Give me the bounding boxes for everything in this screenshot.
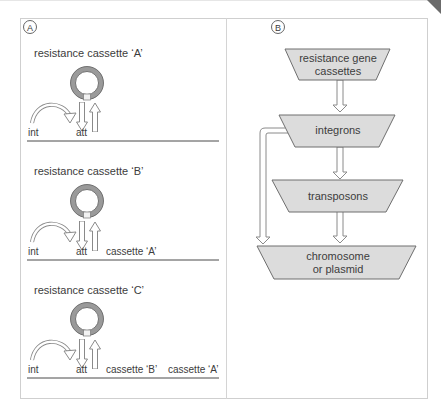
arrow-cassettes-to-integrons-icon xyxy=(333,80,347,112)
insertion-arrow-up-icon xyxy=(90,222,101,251)
att-label: att xyxy=(76,127,87,138)
svg-text:transposons: transposons xyxy=(308,190,368,202)
cassette-ring-icon xyxy=(71,303,104,337)
svg-text:integrons: integrons xyxy=(315,124,361,136)
scenario-c: resistance cassette ‘C’ int att cassette… xyxy=(27,284,219,378)
insertion-arrow-up-icon xyxy=(90,340,101,369)
node-resistance-gene-cassettes: resistance gene cassettes xyxy=(285,49,390,80)
node-integrons: integrons xyxy=(279,115,395,147)
cassette-label: cassette ‘A’ xyxy=(168,364,218,375)
svg-text:chromosome: chromosome xyxy=(306,250,370,262)
int-label: int xyxy=(28,246,39,257)
cassette-ring-icon xyxy=(71,185,104,219)
scenario-title: resistance cassette ‘B’ xyxy=(34,165,143,177)
cassette-ring-icon xyxy=(71,67,104,101)
panel-a-label: A xyxy=(27,23,33,33)
panel-a: A resistance cassette ‘A’ int att resist… xyxy=(24,21,220,379)
svg-text:resistance gene: resistance gene xyxy=(299,52,377,64)
arrow-integrons-to-transposons-icon xyxy=(333,147,347,179)
int-label: int xyxy=(28,127,39,138)
panel-b-label: B xyxy=(275,23,281,33)
insertion-arrow-up-icon xyxy=(90,103,101,132)
scenario-b: resistance cassette ‘B’ int att cassette… xyxy=(27,165,219,260)
diagram-canvas: A resistance cassette ‘A’ int att resist… xyxy=(0,0,441,404)
scenario-title: resistance cassette ‘A’ xyxy=(34,47,143,59)
svg-text:or plasmid: or plasmid xyxy=(313,263,364,275)
cassette-label: cassette ‘A’ xyxy=(106,246,156,257)
int-label: int xyxy=(28,364,39,375)
panel-b: B resistance gene cassettes integrons xyxy=(256,21,416,280)
cassette-label: cassette ‘B’ xyxy=(106,364,157,375)
scenario-a: resistance cassette ‘A’ int att xyxy=(27,47,219,141)
scenario-title: resistance cassette ‘C’ xyxy=(34,284,144,296)
arrow-transposons-to-chromosome-icon xyxy=(333,211,347,243)
svg-text:cassettes: cassettes xyxy=(315,65,362,77)
node-transposons: transposons xyxy=(272,180,403,212)
node-chromosome-or-plasmid: chromosome or plasmid xyxy=(257,246,416,279)
att-label: att xyxy=(76,246,87,257)
att-label: att xyxy=(76,364,87,375)
